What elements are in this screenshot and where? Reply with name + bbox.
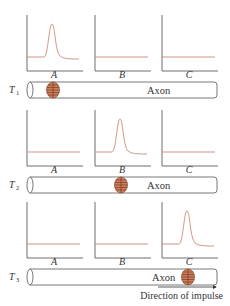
axon-label: Axon [147,180,171,191]
panel-axes [162,15,218,71]
direction-label: Direction of impulse [140,290,223,301]
axon-end-cap [27,177,33,193]
action-potential-spike [162,211,214,246]
time-label: T [9,179,16,190]
position-label-a: A [50,164,58,175]
recording-panel-b: B [95,110,151,175]
time-label: T [9,271,16,282]
panel-axes [162,202,218,258]
recording-panel-a: A [27,202,83,267]
action-potential-spike [27,24,79,59]
panel-axes [27,15,83,71]
panel-axes [95,110,151,166]
recording-panel-c: C [162,110,218,175]
recording-panel-b: B [95,202,151,267]
panel-axes [27,110,83,166]
time-subscript: 3 [16,276,19,283]
position-label-a: A [50,256,58,267]
position-label-b: B [119,256,125,267]
panel-axes [27,202,83,258]
action-potential-propagation-diagram: ABCT1AxonABCT2AxonABCT3Axon Direction of… [0,0,230,306]
recording-panel-a: A [27,15,83,80]
panel-axes [95,15,151,71]
panel-axes [162,110,218,166]
position-label-b: B [119,69,125,80]
axon-label: Axon [147,85,171,96]
position-label-c: C [186,69,193,80]
action-potential-spike [95,119,147,154]
time-subscript: 1 [16,89,19,96]
time-row-1: ABCT1Axon [9,15,218,98]
time-label: T [9,84,16,95]
recording-panel-a: A [27,110,83,175]
excited-region [115,177,128,193]
position-label-a: A [50,69,58,80]
recording-panel-b: B [95,15,151,80]
position-label-b: B [119,164,125,175]
time-subscript: 2 [16,184,19,191]
excited-region [182,269,195,285]
axon-end-cap [27,269,33,285]
panel-axes [95,202,151,258]
excited-region [47,82,60,98]
recording-panel-c: C [162,202,218,267]
position-label-c: C [186,256,193,267]
axon-label: Axon [152,272,176,283]
position-label-c: C [186,164,193,175]
time-row-2: ABCT2Axon [9,110,218,193]
time-row-3: ABCT3Axon [9,202,218,285]
recording-panel-c: C [162,15,218,80]
axon-end-cap [27,82,33,98]
